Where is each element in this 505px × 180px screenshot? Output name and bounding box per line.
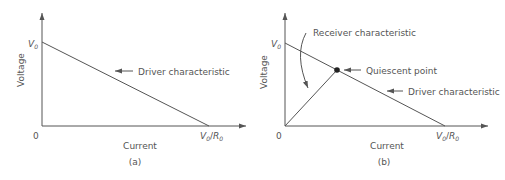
driver-annotation-label: Driver characteristic: [138, 67, 230, 77]
x-axis-title: Current: [370, 141, 404, 151]
panel-caption: (a): [129, 157, 142, 167]
panel-caption: (b): [378, 157, 391, 167]
driver-characteristic-line: [285, 43, 445, 126]
figure: Driver characteristic V0 0 V0/R0 Voltage…: [0, 0, 505, 180]
quiescent-annotation-label: Quiescent point: [366, 66, 438, 76]
y-intercept-label: V0: [271, 39, 281, 50]
origin-label: 0: [33, 131, 39, 141]
x-axis-title: Current: [123, 141, 157, 151]
panel-b: Receiver characteristic Quiescent point …: [259, 13, 500, 167]
y-axis-title: Voltage: [259, 55, 269, 89]
panel-a: Driver characteristic V0 0 V0/R0 Voltage…: [16, 13, 246, 167]
receiver-characteristic-line: [285, 70, 337, 126]
driver-annotation-label: Driver characteristic: [408, 87, 500, 97]
x-intercept-label: V0/R0: [436, 131, 459, 142]
receiver-annotation-label: Receiver characteristic: [313, 28, 416, 38]
receiver-annotation-arrow: [300, 33, 308, 88]
y-axis-title: Voltage: [16, 53, 26, 87]
y-intercept-label: V0: [28, 39, 38, 50]
quiescent-point: [334, 67, 340, 73]
origin-label: 0: [276, 131, 282, 141]
x-intercept-label: V0/R0: [200, 131, 223, 142]
driver-characteristic-line: [42, 42, 209, 126]
